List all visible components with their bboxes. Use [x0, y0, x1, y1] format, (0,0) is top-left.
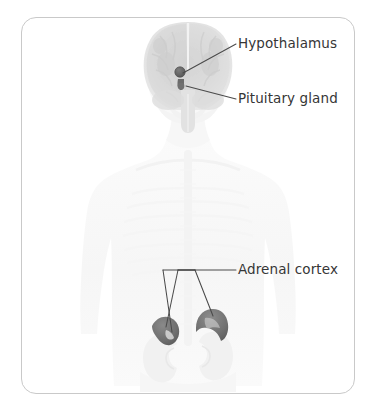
- anatomy-canvas: [0, 0, 378, 411]
- brain: [144, 22, 233, 133]
- label-hypothalamus: Hypothalamus: [238, 36, 337, 51]
- hypothalamus-marker: [175, 67, 185, 77]
- anatomy-figure: Hypothalamus Pituitary gland Adrenal cor…: [0, 0, 378, 411]
- label-adrenal-cortex: Adrenal cortex: [238, 262, 338, 277]
- label-pituitary-gland: Pituitary gland: [238, 91, 338, 106]
